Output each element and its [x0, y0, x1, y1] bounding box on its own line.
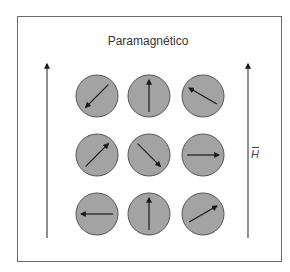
vector-bar-icon	[252, 147, 259, 148]
field-label: H	[251, 148, 259, 160]
spin-diagram	[0, 0, 290, 272]
